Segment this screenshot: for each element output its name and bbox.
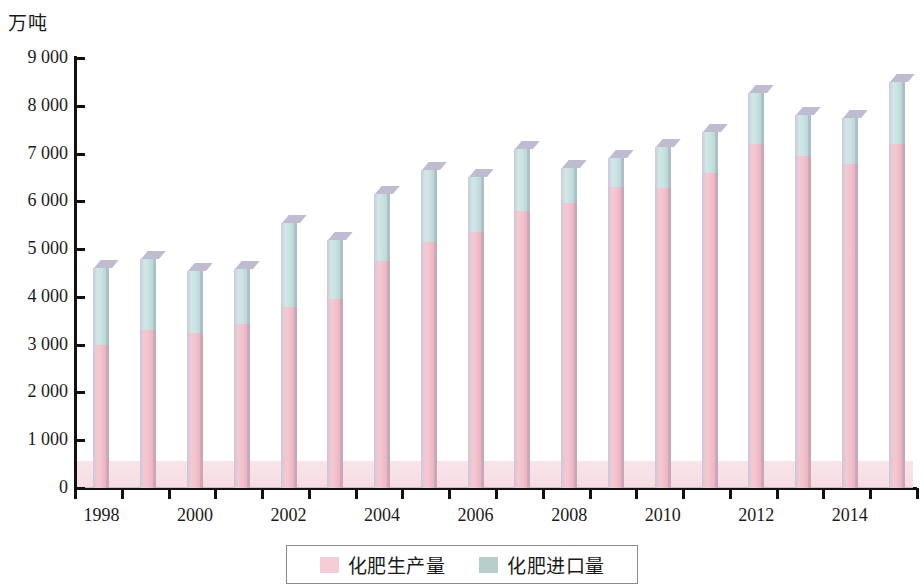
x-axis-tick-label: 2002 (259, 505, 319, 525)
bar-top-face (328, 232, 353, 240)
bar-right-edge-shading (761, 93, 764, 488)
bar-2010[interactable] (655, 147, 671, 488)
bar-2003[interactable] (327, 240, 343, 488)
y-axis-tick-label-text: 1 000 (0, 430, 68, 448)
y-axis-tick-label: 3 000 (0, 335, 68, 353)
y-axis-tick-label: 6 000 (0, 191, 68, 209)
bar-right-edge-shading (153, 259, 156, 488)
bar-top-face (375, 186, 400, 194)
bar-right-edge-shading (574, 168, 577, 488)
y-axis-tick-label-text: 2 000 (0, 382, 68, 400)
bar-2002[interactable] (281, 223, 297, 488)
bar-right-edge-shading (434, 170, 437, 488)
bar-2009[interactable] (608, 158, 624, 488)
bar-top-face (515, 141, 540, 149)
x-axis-tick-label: 2014 (820, 505, 880, 525)
x-axis-tick (682, 488, 685, 499)
x-axis-tick (261, 488, 264, 499)
y-axis-tick-label: 8 000 (0, 96, 68, 114)
bar-left-edge-shading (421, 170, 425, 488)
y-axis-tick-label: 1 000 (0, 430, 68, 448)
bar-top-face (562, 160, 587, 168)
x-axis-tick (542, 488, 545, 499)
bar-right-edge-shading (106, 268, 109, 488)
bar-left-edge-shading (608, 158, 612, 488)
bar-top-face (656, 139, 681, 147)
y-axis-tick-label-text: 8 000 (0, 96, 68, 114)
bar-top-face (469, 169, 494, 177)
legend-item-imports[interactable]: 化肥进口量 (479, 551, 605, 578)
x-axis-tick (916, 488, 919, 499)
x-axis-tick (776, 488, 779, 499)
y-axis-tick-label-text: 7 000 (0, 144, 68, 162)
bar-2006[interactable] (468, 177, 484, 488)
x-axis-tick-label: 2010 (633, 505, 693, 525)
x-axis-tick (401, 488, 404, 499)
y-axis-tick-label-text: 5 000 (0, 239, 68, 257)
fertilizer-stacked-bar-chart: 万吨 01 0002 0003 0004 0005 0006 0007 0008… (0, 0, 924, 584)
y-axis-tick-label: 5 000 (0, 239, 68, 257)
bar-top-face (796, 107, 821, 115)
bar-left-edge-shading (93, 268, 97, 488)
bar-top-face (843, 110, 868, 118)
x-axis-tick-label: 2006 (446, 505, 506, 525)
bar-left-edge-shading (281, 223, 285, 488)
bar-2014[interactable] (842, 118, 858, 488)
bar-top-face (703, 124, 728, 132)
bar-left-edge-shading (468, 177, 472, 488)
legend-item-production[interactable]: 化肥生产量 (320, 551, 446, 578)
x-axis-tick-label: 2000 (165, 505, 225, 525)
bar-1999[interactable] (140, 259, 156, 488)
x-axis-tick (168, 488, 171, 499)
x-axis-tick (822, 488, 825, 499)
x-axis-tick (635, 488, 638, 499)
x-axis-tick (448, 488, 451, 499)
bar-left-edge-shading (702, 132, 706, 488)
bar-right-edge-shading (621, 158, 624, 488)
bar-top-face (94, 260, 119, 268)
legend-swatch-pink-icon (320, 557, 339, 573)
bar-2001[interactable] (234, 269, 250, 488)
x-axis-tick-label: 1998 (71, 505, 131, 525)
bar-right-edge-shading (294, 223, 297, 488)
bar-top-face (609, 150, 634, 158)
bar-2004[interactable] (374, 194, 390, 488)
bar-top-face (235, 261, 260, 269)
bar-2012[interactable] (748, 93, 764, 488)
bar-left-edge-shading (889, 82, 893, 488)
bar-right-edge-shading (527, 149, 530, 488)
legend-label-production: 化肥生产量 (348, 551, 446, 578)
bar-left-edge-shading (842, 118, 846, 488)
y-axis-tick-label-text: 6 000 (0, 191, 68, 209)
bar-left-edge-shading (748, 93, 752, 488)
bar-top-face (282, 215, 307, 223)
bar-2008[interactable] (561, 168, 577, 488)
x-axis-tick (214, 488, 217, 499)
y-axis-tick-label: 4 000 (0, 287, 68, 305)
bar-top-face (749, 85, 774, 93)
x-axis-tick (355, 488, 358, 499)
bar-2015[interactable] (889, 82, 905, 488)
bar-2013[interactable] (795, 115, 811, 488)
chart-legend: 化肥生产量 化肥进口量 (286, 545, 638, 584)
bar-left-edge-shading (561, 168, 565, 488)
bar-2000[interactable] (187, 271, 203, 488)
legend-label-imports: 化肥进口量 (507, 551, 605, 578)
x-axis-tick (308, 488, 311, 499)
bar-right-edge-shading (200, 271, 203, 488)
legend-swatch-teal-icon (479, 557, 498, 573)
y-axis-tick-label: 9 000 (0, 48, 68, 66)
bar-2007[interactable] (514, 149, 530, 488)
bar-right-edge-shading (387, 194, 390, 488)
bar-right-edge-shading (481, 177, 484, 488)
bar-right-edge-shading (902, 82, 905, 488)
x-axis-tick (869, 488, 872, 499)
bar-2011[interactable] (702, 132, 718, 488)
bar-2005[interactable] (421, 170, 437, 488)
bar-left-edge-shading (514, 149, 518, 488)
x-axis-tick-label: 2004 (352, 505, 412, 525)
bar-top-face (422, 162, 447, 170)
y-axis-tick-label: 0 (0, 478, 68, 496)
x-axis-tick (729, 488, 732, 499)
bar-1998[interactable] (93, 268, 109, 488)
